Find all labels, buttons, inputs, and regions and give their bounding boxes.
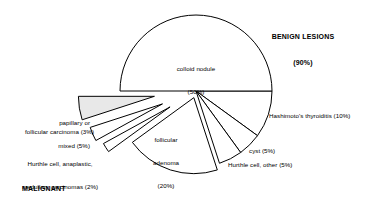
benign-group-title: BENIGN LESIONS [243, 33, 363, 42]
follicular-adenoma-name-1: follicular [135, 136, 197, 144]
hurthle-anaplastic-name-1: Hurthle cell, anaplastic, [8, 160, 112, 168]
slice-label-colloid-nodule: colloid nodule (50%) [146, 50, 246, 111]
pie-chart-figure: BENIGN LESIONS (90%) colloid nodule (50%… [0, 0, 379, 197]
follicular-adenoma-percent: (20%) [135, 182, 197, 190]
slice-label-follicular-carcinoma: follicular carcinoma (3%) [2, 128, 94, 136]
follicular-adenoma-name-2: adenoma [135, 159, 197, 167]
malignant-group-title: MALIGNANT [22, 185, 142, 194]
colloid-nodule-percent: (50%) [146, 88, 246, 96]
papillary-name-1: papillary or [20, 119, 90, 127]
slice-label-cyst: cyst (5%) [249, 147, 309, 155]
malignant-group-label: MALIGNANT LESIONS (10%) [22, 168, 142, 197]
slice-label-follicular-adenoma: follicular adenoma (20%) [135, 121, 197, 197]
slice-label-hurthle-cell-other: Hurthle cell, other (5%) [228, 161, 338, 169]
benign-group-label: BENIGN LESIONS (90%) [243, 16, 363, 85]
colloid-nodule-name: colloid nodule [146, 65, 246, 73]
benign-group-percent: (90%) [243, 59, 363, 68]
slice-label-hashimoto-thyroiditis: Hashimoto's thyroiditis (10%) [269, 112, 379, 120]
